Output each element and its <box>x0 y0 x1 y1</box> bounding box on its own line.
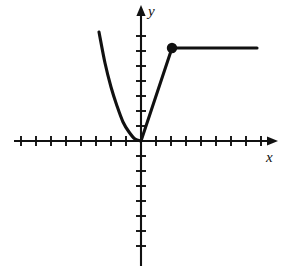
closed-endpoint-dot <box>168 44 176 52</box>
y-axis-label: y <box>148 4 155 19</box>
y-axis-arrowhead <box>136 5 145 16</box>
curve-left-parabolic-branch <box>99 32 141 141</box>
function-curves <box>99 32 257 141</box>
x-axis-label: x <box>266 150 273 165</box>
graph-canvas <box>0 0 293 266</box>
endpoint-markers <box>168 44 176 52</box>
x-axis-arrowhead <box>267 136 278 145</box>
figure-container: ) y x <box>0 0 293 266</box>
axes-group <box>14 5 278 266</box>
curve-rising-segment <box>141 48 172 141</box>
